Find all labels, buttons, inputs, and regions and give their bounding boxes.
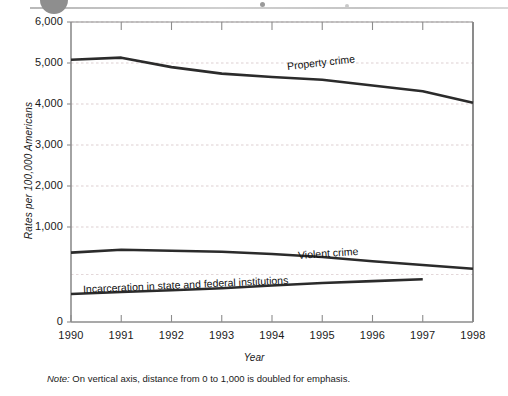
y-tick-label-5000: 5,000: [11, 56, 63, 68]
figure-note: Note: On vertical axis, distance from 0 …: [47, 373, 350, 384]
series-line-2: [71, 250, 473, 269]
y-tick-label-2000: 2,000: [11, 179, 63, 191]
x-axis-title: Year: [0, 352, 508, 363]
chart-plot-area: 01,0002,0003,0004,0005,0006,000 19901991…: [0, 0, 508, 360]
chart-svg: [0, 0, 508, 360]
y-tick-label-0: 0: [11, 315, 63, 327]
series-lines-group: [71, 58, 473, 294]
y-tick-label-3000: 3,000: [11, 138, 63, 150]
figure-note-text: On vertical axis, distance from 0 to 1,0…: [70, 373, 350, 384]
series-line-1: [71, 58, 473, 103]
chart-figure: 01,0002,0003,0004,0005,0006,000 19901991…: [0, 0, 508, 396]
y-tick-label-4000: 4,000: [11, 97, 63, 109]
y-tick-label-6000: 6,000: [11, 15, 63, 27]
x-tick-label-1998: 1998: [443, 329, 503, 341]
y-tick-label-1000: 1,000: [11, 220, 63, 232]
figure-note-prefix: Note:: [47, 373, 70, 384]
y-axis-title: Rates per 100,000 Americans: [23, 91, 34, 251]
